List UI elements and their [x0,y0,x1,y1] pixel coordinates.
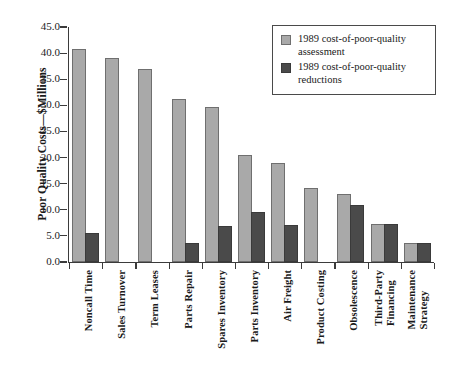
x-axis-label: Third-PartyFinancing [373,270,397,326]
y-axis-tick-mark [60,183,67,184]
x-axis-tick-mark [102,263,103,269]
bar-reduction [384,224,398,262]
x-axis-label: Spares Inventory [216,270,227,349]
x-axis-label-line: Noncall Time [83,270,94,331]
bar-group [72,27,100,262]
x-axis-label: Term Leases [149,270,160,328]
x-axis-label: Parts Repair [183,270,194,329]
x-axis-label-line: Product Costing [315,270,326,345]
bar-assessment [404,243,418,262]
y-axis-tick-label: 5.0 [8,229,60,241]
y-axis-tick-mark [60,105,67,106]
y-axis-tick-mark [60,131,67,132]
bar-reduction [417,243,431,262]
bar-reduction [85,233,99,262]
y-axis-tick-mark [60,157,67,158]
bar-group [105,27,133,262]
x-axis-tick-mark [169,263,170,269]
bar-reduction [185,243,199,262]
x-axis-label-line: Parts Repair [183,270,194,329]
bar-assessment [205,107,219,262]
bar-group [205,27,233,262]
y-axis-tick-mark [60,53,67,54]
x-axis-label-line: Strategy [418,270,430,329]
y-axis-tick-label: 35.0 [8,72,60,84]
x-axis-label: Sales Turnover [116,270,127,339]
x-axis-tick-mark [235,263,236,269]
x-axis-label-line: Spares Inventory [216,270,227,349]
poor-quality-cost-bar-chart: Poor Quality Costs—$Millions 0.05.010.01… [0,0,451,368]
x-axis-label-line: Maintenance [406,270,418,329]
bar-assessment [105,58,119,262]
bar-assessment [138,69,152,262]
y-axis-tick-label: 10.0 [8,203,60,215]
x-axis-tick-mark [268,263,269,269]
bar-assessment [304,188,318,262]
y-axis-tick-mark [60,26,67,27]
x-axis-label-line: Obsolescence [348,270,359,331]
x-axis-label-line: Third-Party [373,270,385,326]
bar-group [238,27,266,262]
x-axis-label-line: Term Leases [149,270,160,328]
y-axis-tick-labels: 0.05.010.015.020.025.030.035.040.045.0 [8,27,60,262]
bar-assessment [238,155,252,262]
x-axis-label-line: Financing [385,270,397,326]
y-axis-tick-mark [60,235,67,236]
y-axis-tick-label: 40.0 [8,46,60,58]
y-axis-tick-label: 0.0 [8,255,60,267]
x-axis-label-line: Sales Turnover [116,270,127,339]
y-axis-tick-label: 30.0 [8,98,60,110]
x-axis-tick-mark [434,263,435,269]
bar-reduction [218,226,232,262]
x-axis-ticks [68,263,434,269]
y-axis-tick-mark [60,261,67,262]
x-axis-tick-mark [69,263,70,269]
x-axis-tick-mark [301,263,302,269]
x-axis-label-line: Air Freight [282,270,293,322]
bar-assessment [172,99,186,262]
legend-label: 1989 cost-of-poor-quality reductions [298,61,426,86]
y-axis-tick-label: 20.0 [8,151,60,163]
bar-reduction [251,212,265,262]
x-axis-tick-mark [334,263,335,269]
x-axis-label: Parts Inventory [249,270,260,342]
legend-label: 1989 cost-of-poor-quality assessment [298,33,426,58]
x-axis-label: Noncall Time [83,270,94,331]
bar-group [138,27,166,262]
x-axis-tick-mark [135,263,136,269]
legend-swatch-assessment [281,35,291,45]
bar-assessment [72,49,86,262]
y-axis-tick-mark [60,209,67,210]
bar-assessment [337,194,351,262]
x-axis-label: MaintenanceStrategy [406,270,430,329]
y-axis-tick-label: 45.0 [8,20,60,32]
bar-group [172,27,200,262]
x-axis-label: Air Freight [282,270,293,322]
x-axis-category-labels: Noncall TimeSales TurnoverTerm LeasesPar… [68,270,434,366]
x-axis-tick-mark [368,263,369,269]
legend-item: 1989 cost-of-poor-quality assessment [281,33,428,58]
x-axis-tick-mark [202,263,203,269]
bar-reduction [284,225,298,262]
bar-assessment [371,224,385,262]
x-axis-tick-mark [401,263,402,269]
y-axis-tick-label: 15.0 [8,177,60,189]
bar-assessment [271,163,285,262]
legend-swatch-reduction [281,63,291,73]
y-axis-tick-mark [60,79,67,80]
y-axis-tick-label: 25.0 [8,124,60,136]
x-axis-label: Obsolescence [348,270,359,331]
x-axis-label-line: Parts Inventory [249,270,260,342]
chart-legend: 1989 cost-of-poor-quality assessment1989… [272,25,436,95]
x-axis-label: Product Costing [315,270,326,345]
legend-item: 1989 cost-of-poor-quality reductions [281,61,428,86]
bar-reduction [350,205,364,262]
